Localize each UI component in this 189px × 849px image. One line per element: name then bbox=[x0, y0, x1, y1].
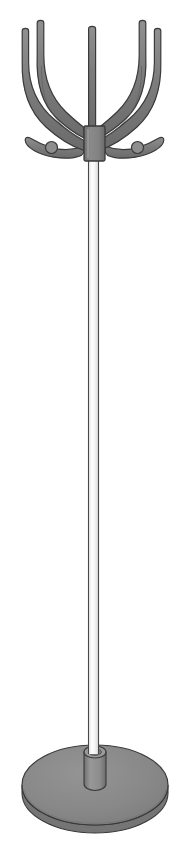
illustration-canvas: Coat rack / hat stand bbox=[0, 0, 189, 849]
coat-rack-illustration bbox=[0, 0, 189, 849]
hub-group bbox=[84, 126, 105, 161]
hub-block bbox=[84, 126, 105, 161]
pole-group bbox=[88, 158, 99, 754]
upper-hook-center bbox=[89, 26, 96, 128]
lower-hook-right-knob bbox=[132, 142, 144, 154]
pole-shaft bbox=[88, 158, 99, 754]
lower-hook-left-knob bbox=[46, 142, 58, 154]
